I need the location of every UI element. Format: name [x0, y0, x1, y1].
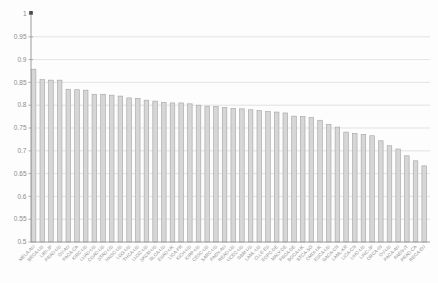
bar	[135, 98, 140, 242]
bar-chart-frame: 10.950.90.850.80.750.70.650.60.550.5MELA…	[0, 0, 438, 283]
bar	[352, 133, 357, 242]
bar	[196, 105, 201, 242]
bar	[75, 90, 80, 242]
bar	[335, 127, 340, 242]
bar	[396, 149, 401, 242]
y-axis-tick-label: 1	[23, 10, 27, 17]
bar	[109, 95, 114, 242]
bar	[387, 146, 392, 242]
y-axis-tick-label: 0.5	[17, 238, 26, 245]
bar	[413, 161, 418, 242]
bar	[162, 102, 167, 242]
y-axis-tick-label: 0.85	[14, 79, 27, 86]
bar	[240, 109, 245, 242]
bar	[222, 107, 227, 242]
y-axis-tick-label: 0.9	[17, 56, 26, 63]
bar	[179, 103, 184, 242]
y-axis-tick-label: 0.55	[14, 215, 27, 222]
screenshot-root: 10.950.90.850.80.750.70.650.60.550.5MELA…	[0, 0, 438, 283]
bar	[370, 136, 375, 242]
bar	[118, 96, 123, 242]
y-axis-tick-label: 0.75	[14, 124, 27, 131]
bar	[231, 108, 236, 242]
bar	[205, 106, 210, 242]
bar	[300, 117, 305, 242]
bar	[266, 112, 271, 242]
bar	[361, 134, 366, 242]
bar	[214, 107, 219, 242]
y-axis-tick-label: 0.65	[14, 170, 27, 177]
y-axis-tick-label: 0.7	[17, 147, 26, 154]
bar	[344, 132, 349, 242]
bar	[257, 111, 262, 242]
y-axis-tick-label: 0.6	[17, 193, 26, 200]
bar	[92, 94, 97, 242]
bar	[422, 166, 427, 242]
bar	[292, 116, 297, 242]
bar	[153, 101, 158, 242]
y-axis-tick-label: 0.8	[17, 101, 26, 108]
bar	[144, 100, 149, 242]
bar	[274, 112, 279, 242]
bar	[101, 94, 106, 242]
bar	[248, 110, 253, 242]
bar	[66, 89, 71, 242]
bar	[40, 80, 45, 242]
bar	[127, 98, 132, 242]
bar	[83, 90, 88, 242]
bar	[318, 120, 323, 242]
bar	[57, 80, 62, 242]
bar	[170, 103, 175, 242]
bar	[49, 80, 54, 242]
bar-chart: 10.950.90.850.80.750.70.650.60.550.5MELA…	[0, 0, 438, 283]
bar	[309, 118, 314, 242]
bar	[379, 141, 384, 242]
bar	[31, 69, 36, 242]
axis-top-marker	[29, 11, 33, 15]
bar	[326, 124, 331, 242]
bar	[188, 104, 193, 242]
y-axis-tick-label: 0.95	[14, 33, 27, 40]
bar	[283, 113, 288, 242]
bar	[405, 156, 410, 242]
